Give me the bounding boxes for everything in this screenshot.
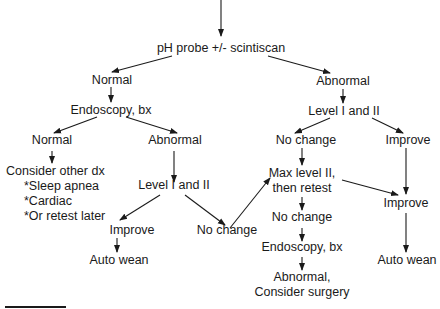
node-improve-right: Improve	[383, 196, 428, 211]
node-max-level-line2: then retest	[272, 181, 331, 196]
node-cardiac: *Cardiac	[24, 194, 72, 209]
flowchart-canvas: pH probe +/- scintiscan Normal Abnormal …	[0, 0, 440, 309]
node-max-level-line1: Max level II,	[269, 166, 336, 181]
node-abnormal-final-line1: Abnormal,	[274, 270, 331, 285]
node-abnormal-2: Abnormal	[148, 133, 202, 148]
node-normal: Normal	[92, 73, 132, 88]
node-abnormal: Abnormal	[316, 74, 370, 89]
node-level-left: Level I and II	[138, 178, 210, 193]
node-improve-left: Improve	[109, 223, 154, 238]
node-sleep-apnea: *Sleep apnea	[24, 179, 99, 194]
node-endoscopy-2: Endoscopy, bx	[261, 240, 342, 255]
node-abnormal-final-line2: Consider surgery	[254, 285, 349, 300]
node-retest-later: *Or retest later	[24, 209, 105, 224]
node-normal-2: Normal	[32, 133, 72, 148]
node-improve-right-top: Improve	[385, 133, 430, 148]
node-no-change-left: No change	[197, 223, 257, 238]
node-auto-wean-right: Auto wean	[377, 253, 436, 268]
node-consider-other-dx: Consider other dx	[6, 164, 105, 179]
node-no-change-right-2: No change	[272, 210, 332, 225]
node-ph-probe: pH probe +/- scintiscan	[157, 41, 285, 56]
node-no-change-right: No change	[276, 133, 336, 148]
node-auto-wean-left: Auto wean	[89, 253, 148, 268]
node-level-right: Level I and II	[308, 104, 380, 119]
node-endoscopy: Endoscopy, bx	[70, 103, 151, 118]
